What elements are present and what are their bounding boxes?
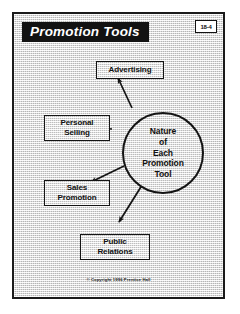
hub-label: Nature of Each Promotion Tool (142, 126, 184, 179)
hub-circle-nature-of-each-promotion-tool: Nature of Each Promotion Tool (122, 112, 204, 194)
tool-box-public-relations-label: Public Relations (97, 237, 132, 257)
tool-box-advertising: Advertising (92, 61, 164, 83)
tool-box-sales-promotion-face: Sales Promotion (44, 180, 110, 206)
page-number-badge: 18-4 (195, 20, 217, 33)
tool-box-sales-promotion: Sales Promotion (40, 180, 110, 210)
tool-box-public-relations-face: Public Relations (80, 234, 150, 260)
copyright-text: © Copyright 1996 Prentice Hall (86, 277, 150, 282)
slide-title-banner: Promotion Tools (22, 22, 149, 42)
tool-box-personal-selling-label: Personal Selling (61, 118, 94, 138)
copyright-line: © Copyright 1996 Prentice Hall (14, 267, 223, 285)
tool-box-advertising-label: Advertising (109, 65, 152, 75)
tool-box-sales-promotion-label: Sales Promotion (57, 183, 96, 203)
tool-box-public-relations: Public Relations (76, 234, 150, 264)
slide-frame: Promotion Tools 18-4 Nature of Each Prom… (12, 12, 225, 299)
page-title: Promotion Tools (30, 25, 140, 39)
page-number-text: 18-4 (200, 24, 211, 30)
connector-hub-to-public-relations (119, 182, 144, 222)
slide-root: Promotion Tools 18-4 Nature of Each Prom… (0, 0, 240, 314)
tool-box-personal-selling-face: Personal Selling (44, 115, 110, 141)
tool-box-personal-selling: Personal Selling (40, 115, 110, 145)
tool-box-advertising-face: Advertising (96, 61, 164, 79)
